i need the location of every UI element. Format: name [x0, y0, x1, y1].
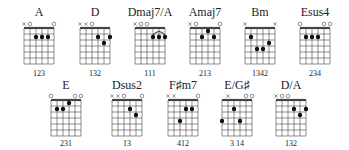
- finger-dot: [46, 35, 50, 39]
- finger-dot: [178, 119, 182, 123]
- chord-name: D/A: [281, 78, 302, 92]
- finger-dot: [267, 41, 271, 45]
- open-string-icon: [28, 22, 32, 26]
- muted-string-icon: [274, 94, 277, 97]
- muted-string-icon: [116, 94, 119, 97]
- fingering-label: 132: [89, 69, 101, 78]
- open-string-icon: [145, 22, 149, 26]
- open-string-icon: [79, 94, 83, 98]
- finger-dot: [40, 35, 44, 39]
- chord-name: Dsus2: [112, 78, 142, 92]
- open-string-icon: [322, 22, 326, 26]
- open-string-icon: [122, 94, 126, 98]
- chord-name: E: [62, 78, 69, 92]
- fingering-label: 3 14: [230, 139, 244, 148]
- open-string-icon: [244, 94, 248, 98]
- finger-dot: [190, 107, 194, 111]
- chord-diagram: E231: [49, 78, 83, 148]
- fingering-label: 111: [144, 69, 155, 78]
- chord-diagram: Amaj7213: [188, 5, 221, 78]
- finger-dot: [298, 113, 302, 117]
- finger-dot: [55, 107, 59, 111]
- chord-diagram: F♯m7412: [166, 78, 199, 148]
- muted-string-icon: [172, 94, 175, 97]
- chord-name: Amaj7: [189, 5, 222, 19]
- finger-dot: [255, 47, 259, 51]
- finger-dot: [184, 107, 188, 111]
- fingering-label: 213: [199, 69, 211, 78]
- finger-dot: [206, 29, 210, 33]
- finger-dot: [232, 107, 236, 111]
- muted-string-icon: [226, 94, 229, 97]
- muted-string-icon: [188, 22, 191, 25]
- chord-diagram: Dsus213: [110, 78, 143, 148]
- chord-diagram: Bm1342: [243, 5, 276, 78]
- finger-dot: [292, 107, 296, 111]
- muted-string-icon: [22, 22, 25, 25]
- chord-name: E/G♯: [224, 78, 249, 92]
- fingering-label: 234: [309, 69, 321, 78]
- finger-dot: [157, 35, 161, 39]
- finger-dot: [200, 35, 204, 39]
- open-string-icon: [52, 22, 56, 26]
- muted-string-icon: [133, 22, 136, 25]
- open-string-icon: [139, 22, 143, 26]
- open-string-icon: [218, 22, 222, 26]
- muted-string-icon: [243, 22, 246, 25]
- chord-diagram: Esus4234: [298, 5, 332, 78]
- open-string-icon: [194, 22, 198, 26]
- fingering-label: 1342: [252, 69, 268, 78]
- finger-dot: [108, 35, 112, 39]
- chord-name: A: [35, 5, 44, 19]
- fingering-label: 412: [177, 139, 189, 148]
- finger-dot: [249, 35, 253, 39]
- finger-dot: [220, 119, 224, 123]
- muted-string-icon: [166, 94, 169, 97]
- finger-dot: [34, 35, 38, 39]
- finger-dot: [212, 35, 216, 39]
- open-string-icon: [140, 94, 144, 98]
- finger-dot: [238, 119, 242, 123]
- finger-dot: [128, 107, 132, 111]
- finger-dot: [96, 35, 100, 39]
- fingering-label: 13: [123, 139, 131, 148]
- chord-diagram: D/A132: [274, 78, 308, 148]
- open-string-icon: [298, 22, 302, 26]
- finger-dot: [151, 35, 155, 39]
- finger-dot: [163, 35, 167, 39]
- fingering-label: 123: [33, 69, 45, 78]
- finger-dot: [304, 35, 308, 39]
- muted-string-icon: [84, 22, 87, 25]
- finger-dot: [67, 101, 71, 105]
- open-string-icon: [73, 94, 77, 98]
- open-string-icon: [49, 94, 53, 98]
- fingering-label: 231: [60, 139, 72, 148]
- finger-dot: [102, 41, 106, 45]
- fingering-label: 132: [285, 139, 297, 148]
- muted-string-icon: [110, 94, 113, 97]
- finger-dot: [310, 35, 314, 39]
- finger-dot: [61, 107, 65, 111]
- chord-diagram: A123: [22, 5, 55, 78]
- chord-chart: A123D132Dmaj7/A111Amaj7213Bm1342Esus4234…: [0, 0, 349, 150]
- chord-name: Bm: [251, 5, 269, 19]
- finger-dot: [261, 47, 265, 51]
- open-string-icon: [196, 94, 200, 98]
- open-string-icon: [280, 94, 284, 98]
- finger-dot: [134, 113, 138, 117]
- chord-diagram: Dmaj7/A111: [128, 5, 173, 78]
- open-string-icon: [286, 94, 290, 98]
- finger-dot: [304, 107, 308, 111]
- chord-name: F♯m7: [169, 78, 197, 92]
- muted-string-icon: [78, 22, 81, 25]
- open-string-icon: [250, 94, 254, 98]
- chord-diagram: E/G♯3 14: [220, 78, 254, 148]
- chord-name: D: [91, 5, 100, 19]
- chord-diagram: D132: [78, 5, 112, 78]
- finger-dot: [316, 35, 320, 39]
- chord-name: Dmaj7/A: [128, 5, 173, 19]
- open-string-icon: [90, 22, 94, 26]
- muted-string-icon: [273, 22, 276, 25]
- open-string-icon: [328, 22, 332, 26]
- chord-name: Esus4: [301, 5, 330, 19]
